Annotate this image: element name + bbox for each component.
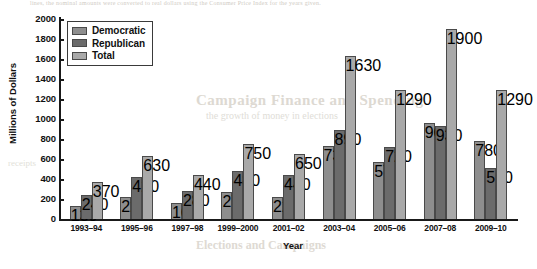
bar: 730 bbox=[323, 146, 334, 219]
legend-label: Democratic bbox=[92, 25, 145, 37]
legend-swatch-icon bbox=[72, 27, 87, 35]
y-axis-title: Millions of Dollars bbox=[7, 19, 18, 189]
y-axis-tick-label: 200 bbox=[40, 194, 60, 204]
bar: 220 bbox=[272, 197, 283, 219]
bar-group: 270480750 bbox=[213, 19, 264, 219]
bar: 220 bbox=[120, 197, 131, 219]
bar-group: 220440650 bbox=[263, 19, 314, 219]
y-axis-tick-label: 1800 bbox=[35, 34, 60, 44]
x-axis-tick-label: 1993–94 bbox=[61, 223, 112, 233]
bar: 510 bbox=[485, 168, 496, 219]
x-axis-tick-label: 2003–04 bbox=[314, 223, 365, 233]
x-axis-tick-label: 1995–96 bbox=[112, 223, 163, 233]
x-axis-tick-label: 1997–98 bbox=[162, 223, 213, 233]
bar: 160 bbox=[171, 203, 182, 219]
x-axis-tick-labels: 1993–941995–961997–981999–20002001–02200… bbox=[61, 223, 516, 233]
chart-legend: DemocraticRepublicanTotal bbox=[67, 21, 153, 66]
bar: 1290 bbox=[395, 90, 406, 219]
y-axis-tick-label: 800 bbox=[40, 134, 60, 144]
bar-group: 7308901630 bbox=[314, 19, 365, 219]
y-axis-tick-label: 600 bbox=[40, 154, 60, 164]
legend-swatch-icon bbox=[72, 52, 87, 60]
x-axis-line bbox=[59, 219, 518, 221]
bar: 960 bbox=[424, 123, 435, 219]
bar: 370 bbox=[92, 182, 103, 219]
bar-group: 9609301900 bbox=[415, 19, 466, 219]
bar: 930 bbox=[435, 126, 446, 219]
bar-group: 160280440 bbox=[162, 19, 213, 219]
bar: 240 bbox=[81, 195, 92, 219]
y-axis-tick-label: 1000 bbox=[35, 114, 60, 124]
legend-swatch-icon bbox=[72, 39, 87, 47]
bar-group: 7805101290 bbox=[466, 19, 517, 219]
legend-label: Republican bbox=[92, 38, 145, 50]
bar: 650 bbox=[294, 154, 305, 219]
y-axis-tick-label: 1200 bbox=[35, 94, 60, 104]
x-axis-tick-label: 2009–10 bbox=[466, 223, 517, 233]
x-axis-title: Year bbox=[30, 240, 537, 251]
bar: 1630 bbox=[345, 56, 356, 219]
legend-item: Total bbox=[72, 50, 145, 62]
bar: 280 bbox=[182, 191, 193, 219]
bar: 440 bbox=[283, 175, 294, 219]
bar: 420 bbox=[131, 177, 142, 219]
bar: 1290 bbox=[496, 90, 507, 219]
bar: 440 bbox=[193, 175, 204, 219]
bar: 1900 bbox=[446, 29, 457, 219]
bar: 720 bbox=[384, 147, 395, 219]
legend-label: Total bbox=[92, 50, 115, 62]
bar: 780 bbox=[474, 141, 485, 219]
bar-group: 5707201290 bbox=[364, 19, 415, 219]
bar: 890 bbox=[334, 130, 345, 219]
bar: 130 bbox=[70, 206, 81, 219]
bar: 630 bbox=[142, 156, 153, 219]
y-axis-tick-label: 400 bbox=[40, 174, 60, 184]
y-axis-tick-label: 2000 bbox=[35, 14, 60, 24]
legend-item: Republican bbox=[72, 38, 145, 50]
x-axis-tick-label: 2007–08 bbox=[415, 223, 466, 233]
bar: 480 bbox=[232, 171, 243, 219]
x-axis-tick-label: 1999–2000 bbox=[213, 223, 264, 233]
y-axis-tick-label: 1400 bbox=[35, 74, 60, 84]
legend-item: Democratic bbox=[72, 25, 145, 37]
x-axis-tick-label: 2005–06 bbox=[364, 223, 415, 233]
bar: 270 bbox=[221, 192, 232, 219]
x-axis-tick-label: 2001–02 bbox=[263, 223, 314, 233]
y-axis-tick-label: 0 bbox=[51, 214, 60, 224]
bar: 570 bbox=[373, 162, 384, 219]
bar: 750 bbox=[243, 144, 254, 219]
y-axis-tick-label: 1600 bbox=[35, 54, 60, 64]
y-axis-tick-mark bbox=[60, 219, 64, 221]
